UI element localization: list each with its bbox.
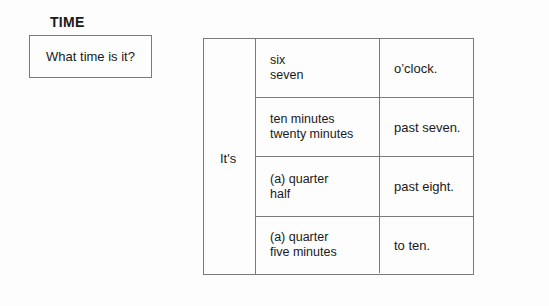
ending-text: past seven. [394, 120, 461, 135]
question-text: What time is it? [46, 49, 135, 64]
option-1: (a) quarter [270, 230, 379, 245]
time-options-cell: ten minutes twenty minutes [256, 98, 380, 156]
option-1: ten minutes [270, 112, 379, 127]
ending-cell: o’clock. [380, 39, 473, 97]
option-2: five minutes [270, 245, 379, 260]
table-row: (a) quarter half past eight. [256, 157, 473, 217]
time-options-cell: (a) quarter half [256, 157, 380, 216]
table-row: (a) quarter five minutes to ten. [256, 217, 473, 273]
substitution-table: It's six seven o’clock. ten minutes twen… [203, 38, 474, 275]
table-row: six seven o’clock. [256, 39, 473, 98]
table-row: ten minutes twenty minutes past seven. [256, 98, 473, 157]
lead-text: It's [220, 151, 236, 166]
option-1: (a) quarter [270, 172, 379, 187]
lead-column: It's [204, 39, 256, 274]
ending-text: to ten. [394, 238, 430, 253]
option-1: six [270, 53, 379, 68]
ending-cell: to ten. [380, 217, 473, 273]
ending-cell: past eight. [380, 157, 473, 216]
time-options-cell: (a) quarter five minutes [256, 217, 380, 273]
question-box: What time is it? [29, 35, 152, 78]
time-options-cell: six seven [256, 39, 380, 97]
option-2: twenty minutes [270, 127, 379, 142]
option-2: seven [270, 68, 379, 83]
ending-cell: past seven. [380, 98, 473, 156]
ending-text: past eight. [394, 179, 454, 194]
section-title: TIME [50, 14, 85, 30]
option-2: half [270, 187, 379, 202]
ending-text: o’clock. [394, 61, 437, 76]
